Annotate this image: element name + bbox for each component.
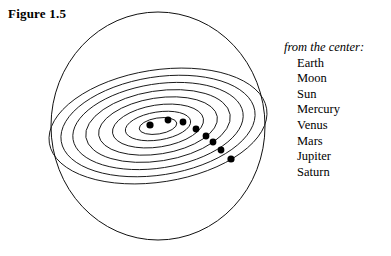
body-dot-saturn xyxy=(227,155,234,162)
legend: from the center: Earth Moon Sun Mercury … xyxy=(286,40,391,180)
orbit-earth xyxy=(138,115,178,137)
body-dot-moon xyxy=(165,117,172,124)
orbit-venus xyxy=(80,80,235,172)
body-dot-venus xyxy=(203,133,210,140)
legend-item-venus: Venus xyxy=(286,118,391,134)
celestial-sphere-group xyxy=(51,12,265,240)
legend-item-moon: Moon xyxy=(286,71,391,87)
body-dot-earth xyxy=(146,121,153,128)
legend-item-earth: Earth xyxy=(286,56,391,72)
body-dot-sun xyxy=(180,119,187,126)
celestial-sphere-outline xyxy=(51,12,265,240)
orbit-moon xyxy=(123,107,193,145)
legend-item-mars: Mars xyxy=(286,134,391,150)
legend-item-mercury: Mercury xyxy=(286,102,391,118)
legend-item-saturn: Saturn xyxy=(286,165,391,181)
orbit-sun xyxy=(109,98,206,154)
orbit-ellipses-group xyxy=(41,53,276,198)
body-dot-jupiter xyxy=(218,147,225,154)
body-dot-mars xyxy=(210,139,217,146)
legend-heading: from the center: xyxy=(284,40,391,56)
body-dot-mercury xyxy=(193,126,200,133)
orbit-saturn xyxy=(41,53,276,198)
legend-item-sun: Sun xyxy=(286,87,391,103)
orbit-jupiter xyxy=(54,62,263,189)
legend-item-jupiter: Jupiter xyxy=(286,149,391,165)
